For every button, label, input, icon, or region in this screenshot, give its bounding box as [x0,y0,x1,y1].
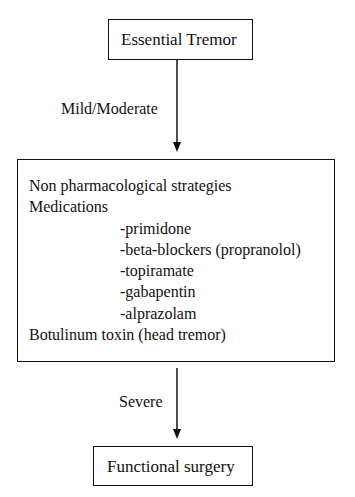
node-label: Essential Tremor [121,31,237,48]
line-beta-blockers: -beta-blockers (propranolol) [120,242,301,258]
arrowhead-icon [173,429,181,439]
line-gabapentin: -gabapentin [120,284,196,300]
arrowhead-icon [173,142,181,152]
line-non-pharmacological: Non pharmacological strategies [29,178,232,194]
edge-label-mild-moderate: Mild/Moderate [61,101,158,117]
node-functional-surgery: Functional surgery [93,446,253,486]
line-botulinum-toxin: Botulinum toxin (head tremor) [29,327,226,343]
line-topiramate: -topiramate [120,263,194,279]
edge-label-severe: Severe [119,394,163,410]
line-alprazolam: -alprazolam [120,306,196,322]
node-essential-tremor: Essential Tremor [108,19,253,60]
line-medications: Medications [29,199,108,215]
node-label: Functional surgery [107,458,235,475]
node-treatments: Non pharmacological strategies Medicatio… [17,159,335,362]
line-primidone: -primidone [120,221,191,237]
